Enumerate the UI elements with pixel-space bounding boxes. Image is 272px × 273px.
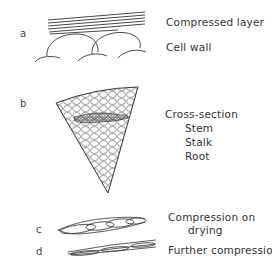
panel-d-tag: d	[36, 246, 42, 257]
compressed-cells-c	[58, 217, 146, 235]
label-compression-on: Compression on	[168, 211, 255, 223]
label-further-compression: Further compression	[168, 244, 272, 256]
label-stalk: Stalk	[185, 136, 212, 148]
label-root: Root	[185, 150, 210, 162]
label-stem: Stem	[185, 122, 213, 134]
panel-b-tag: b	[20, 98, 26, 109]
panel-a-tag: a	[20, 28, 26, 39]
label-cell-wall: Cell wall	[166, 41, 212, 53]
cell-wall-arcs	[35, 32, 146, 62]
figure: a Compressed layer Cell wall b Cross-sec…	[0, 0, 272, 273]
cross-section-wedge	[50, 84, 145, 196]
label-cross-section: Cross-section	[165, 108, 238, 120]
label-compressed-layer: Compressed layer	[166, 16, 264, 28]
compressed-cells-d	[68, 240, 156, 256]
compressed-layer-lines	[48, 12, 145, 34]
label-drying: drying	[188, 224, 223, 236]
panel-c-tag: c	[36, 224, 42, 235]
